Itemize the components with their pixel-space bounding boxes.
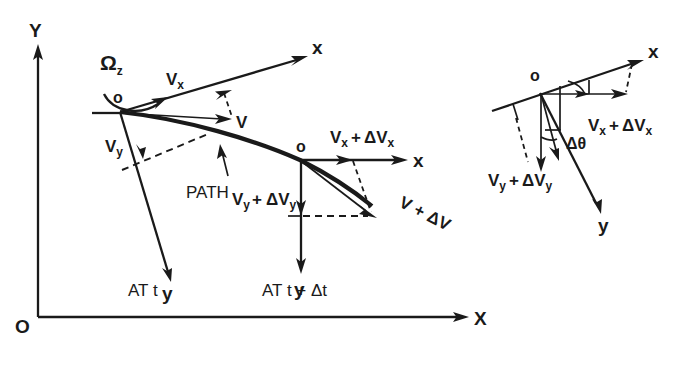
- inset-vx-base-subscript: x: [599, 124, 606, 138]
- frame-t-vx-subscript: x: [177, 78, 184, 92]
- inset-vy-operator: +: [509, 171, 519, 190]
- frame-t-y-axis-label: y: [162, 283, 173, 304]
- global-y-axis-label: Y: [29, 20, 42, 41]
- frame-dt-vy-delta: ΔV: [266, 190, 290, 209]
- frame-dt-vx-base-subscript: x: [341, 136, 348, 150]
- inset-vy-label: Vy+ΔVy: [488, 171, 553, 193]
- frame-t-vx-label: Vx: [166, 70, 184, 92]
- frame-dt-resultant-line: [301, 161, 366, 211]
- frame-dt-resultant-label: V+ΔV: [396, 193, 454, 235]
- omega-z-label: Ωz: [100, 51, 123, 78]
- frame-dt-vy-delta-subscript: y: [290, 198, 297, 212]
- inset-origin-label: o: [530, 67, 540, 84]
- inset-delta-theta-arc: [541, 137, 557, 140]
- frame-at-t-group: x y o Vx Vy V Ωz AT t: [92, 37, 323, 304]
- inset-angle-detail-group: x y o Vx+ΔVx: [488, 41, 659, 236]
- inset-delta-theta-label: Δθ: [566, 135, 586, 152]
- frame-t-v-label: V: [236, 113, 248, 132]
- inset-previous-direction-dash: [516, 118, 528, 162]
- inset-x-axis-line: [492, 63, 634, 111]
- inset-vy-delta-subscript: y: [546, 179, 553, 193]
- frame-t-y-axis-line: [120, 112, 168, 272]
- figure-canvas: Velocity components in a rotating body-f…: [0, 0, 693, 368]
- frame-t-vy-subscript: y: [116, 145, 123, 159]
- inset-vx-delta: ΔV: [622, 116, 646, 135]
- frame-dt-x-axis-label: x: [413, 150, 424, 171]
- inset-vx-label: Vx+ΔVx: [588, 116, 653, 138]
- frame-dt-vy-operator: +: [252, 190, 262, 209]
- frame-dt-vx-delta-subscript: x: [388, 136, 395, 150]
- frame-dt-origin-label: o: [296, 138, 306, 155]
- inset-vx-operator: +: [609, 116, 619, 135]
- inset-vx-delta-subscript: x: [646, 124, 653, 138]
- frame-dt-resultant-operator: +: [411, 200, 429, 221]
- frame-t-vx-arrowhead: [215, 90, 232, 100]
- frame-dt-vy-base-subscript: y: [243, 198, 250, 212]
- frame-t-reference-dash: [122, 134, 208, 170]
- frame-t-caption: AT t: [128, 281, 158, 300]
- frame-dt-vx-label: Vx+ΔVx: [330, 128, 395, 150]
- velocity-diagram-svg: Velocity components in a rotating body-f…: [0, 0, 693, 368]
- frame-t-origin-label: o: [113, 89, 123, 106]
- inset-vy-rotated-arrowhead: [549, 147, 559, 161]
- frame-dt-vy-label: Vy+ΔVy: [232, 190, 297, 212]
- frame-dt-vertical-construction-dash: [353, 161, 371, 212]
- path-label: PATH: [186, 183, 229, 202]
- inset-x-axis-label: x: [648, 41, 659, 62]
- global-origin-label: O: [15, 316, 30, 337]
- frame-dt-vx-delta: ΔV: [364, 128, 388, 147]
- inset-vy-delta: ΔV: [522, 171, 546, 190]
- frame-dt-resultant-label-group: V+ΔV: [396, 193, 454, 235]
- frame-dt-vx-operator: +: [351, 128, 361, 147]
- frame-t-vy-label: Vy: [105, 137, 123, 159]
- frame-t-x-axis-label: x: [312, 37, 323, 58]
- global-axes: Y X O: [15, 20, 487, 337]
- omega-z-subscript: z: [117, 64, 123, 78]
- frame-t-x-axis-line: [120, 59, 300, 112]
- frame-dt-resultant-delta: ΔV: [424, 207, 454, 235]
- inset-y-axis-arrowhead: [592, 199, 602, 214]
- inset-y-axis-label: y: [598, 215, 609, 236]
- frame-dt-caption: AT t + Δt: [262, 281, 327, 300]
- frame-t-vy-arrowhead: [136, 144, 146, 159]
- global-x-axis-label: X: [474, 308, 487, 329]
- frame-at-t-plus-dt-group: x y o Vx+ΔVx Vy+ΔVy V+ΔV: [232, 128, 454, 300]
- inset-vy-base-subscript: y: [499, 179, 506, 193]
- inset-left-tick: [513, 104, 518, 120]
- path-callout-arrowhead: [217, 144, 227, 159]
- frame-t-v-construction-dash: [224, 93, 232, 117]
